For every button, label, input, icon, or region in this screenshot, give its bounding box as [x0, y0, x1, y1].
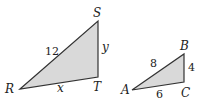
vertex-b-label: B [179, 39, 189, 53]
similar-triangles-diagram: R S T 12 y x A B C 8 4 6 [0, 0, 202, 106]
triangle-abc [132, 54, 184, 90]
side-bc-label: 4 [188, 61, 195, 74]
vertex-a-label: A [120, 83, 130, 97]
side-st-label: y [101, 40, 109, 54]
vertex-t-label: T [93, 80, 102, 94]
vertex-r-label: R [4, 82, 14, 96]
side-rs-label: 12 [45, 45, 59, 58]
side-rt-label: x [57, 81, 64, 95]
side-ab-label: 8 [150, 57, 157, 70]
vertex-s-label: S [93, 6, 101, 20]
triangle-rst [20, 21, 98, 89]
vertex-c-label: C [181, 86, 190, 100]
side-ac-label: 6 [156, 88, 163, 101]
